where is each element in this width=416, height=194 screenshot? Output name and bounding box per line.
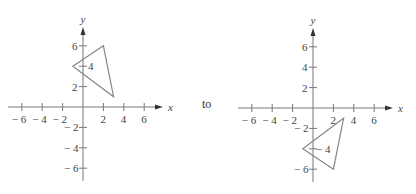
graph-reflected: xy− 6− 4− 2246642− 2− 4− 6 <box>238 14 403 182</box>
y-tick-label: − 2 <box>294 122 308 134</box>
y-axis-label: y <box>310 14 316 26</box>
y-tick-label: 2 <box>302 82 308 94</box>
y-tick-label: 4 <box>88 60 94 72</box>
x-tick-label: 6 <box>141 113 147 125</box>
y-tick-label: − 4 <box>316 143 331 155</box>
y-tick-label: − 2 <box>64 121 78 133</box>
y-tick-label: 6 <box>72 40 78 52</box>
y-axis-arrow-icon <box>81 27 86 35</box>
x-axis-label: x <box>167 101 173 113</box>
y-tick-label: 6 <box>302 41 308 53</box>
y-tick-label: − 6 <box>64 162 79 174</box>
x-tick-label: 6 <box>371 114 377 126</box>
x-tick-label: − 6 <box>242 114 257 126</box>
x-tick-label: − 4 <box>32 113 47 125</box>
x-axis-arrow-icon <box>155 105 163 110</box>
x-axis-arrow-icon <box>385 106 393 111</box>
graph-original: xy− 6− 4− 2246642− 2− 4− 6 <box>8 13 173 181</box>
y-axis-label: y <box>80 13 86 25</box>
y-tick-label: − 6 <box>294 163 309 175</box>
x-tick-label: 4 <box>351 114 357 126</box>
x-axis-label: x <box>397 102 403 114</box>
y-axis-arrow-icon <box>311 28 316 36</box>
x-tick-label: 4 <box>121 113 127 125</box>
x-tick-label: − 4 <box>262 114 277 126</box>
y-tick-label: − 4 <box>64 142 79 154</box>
x-tick-label: 2 <box>100 113 106 125</box>
y-tick-label: 2 <box>72 81 78 93</box>
x-tick-label: − 6 <box>12 113 27 125</box>
y-tick-label: 4 <box>302 61 308 73</box>
connector-text: to <box>202 97 211 112</box>
